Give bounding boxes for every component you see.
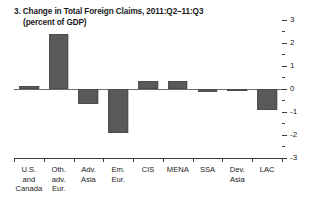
bar-slot: [252, 20, 282, 158]
x-axis-label-oth-adv-eur: Oth. adv. Eur.: [44, 165, 74, 194]
tick-mark-icon: [282, 100, 285, 101]
bar-slot: [44, 20, 74, 158]
bar-cis[interactable]: [138, 81, 158, 89]
x-axis-ticks: [14, 159, 282, 163]
bar-lac[interactable]: [257, 89, 277, 110]
tick-mark-icon: [282, 43, 287, 44]
x-axis-label-mena: MENA: [163, 165, 193, 175]
y-tick-label: -3: [290, 154, 297, 162]
tick-mark-icon: [282, 31, 285, 32]
x-axis-label-em-eur: Em. Eur.: [103, 165, 133, 184]
y-tick-label: 3: [290, 16, 294, 24]
bar-slot: [193, 20, 223, 158]
tick-mark-icon: [282, 77, 285, 78]
y-tick-label: -2: [290, 131, 297, 139]
x-axis-label-cis: CIS: [133, 165, 163, 175]
tick-mark-icon: [282, 66, 287, 67]
tick-mark-icon: [282, 20, 287, 21]
bar-slot: [163, 20, 193, 158]
x-tick-mark-icon: [252, 159, 253, 162]
plot-area: [14, 20, 282, 158]
bar-adv-asia[interactable]: [79, 89, 99, 104]
y-tick-label: 0: [290, 85, 294, 93]
x-tick-mark-icon: [103, 159, 104, 162]
y-tick-label: 1: [290, 62, 294, 70]
x-axis-label-u-s-and-canada: U.S. and Canada: [14, 165, 44, 194]
x-tick-mark-icon: [193, 159, 194, 162]
tick-mark-icon: [282, 112, 287, 113]
tick-mark-icon: [282, 123, 285, 124]
x-tick-mark-icon: [163, 159, 164, 162]
tick-mark-icon: [282, 146, 285, 147]
x-tick-mark-icon: [74, 159, 75, 162]
x-tick-mark-icon: [14, 159, 15, 162]
x-tick-mark-icon: [222, 159, 223, 162]
x-axis-label-adv-asia: Adv. Asia: [74, 165, 104, 184]
bar-slot: [14, 20, 44, 158]
bar-mena[interactable]: [168, 81, 188, 89]
bar-series: [14, 20, 282, 158]
x-axis-label-lac: LAC: [252, 165, 282, 175]
bar-em-eur[interactable]: [108, 89, 128, 133]
x-axis-label-ssa: SSA: [193, 165, 223, 175]
bar-u-s-and-canada[interactable]: [19, 86, 39, 89]
tick-mark-icon: [282, 135, 287, 136]
x-tick-mark-icon: [44, 159, 45, 162]
tick-mark-icon: [282, 54, 285, 55]
bar-slot: [103, 20, 133, 158]
x-tick-mark-icon: [133, 159, 134, 162]
bar-slot: [222, 20, 252, 158]
tick-mark-icon: [282, 89, 287, 90]
bar-ssa[interactable]: [198, 89, 218, 92]
x-axis-label-dev-asia: Dev. Asia: [222, 165, 252, 184]
y-tick-label: 2: [290, 39, 294, 47]
page-title: 3. Change in Total Foreign Claims, 2011:…: [14, 6, 264, 17]
x-tick-mark-icon: [282, 159, 283, 162]
y-tick-label: -1: [290, 108, 297, 116]
x-axis-category-labels: U.S. and CanadaOth. adv. Eur.Adv. AsiaEm…: [14, 165, 282, 194]
chart-figure: 3. Change in Total Foreign Claims, 2011:…: [0, 0, 315, 207]
bar-oth-adv-eur[interactable]: [49, 34, 69, 89]
bar-dev-asia[interactable]: [228, 89, 248, 91]
y-axis: 3210-1-2-3: [282, 20, 315, 158]
bar-slot: [74, 20, 104, 158]
bar-slot: [133, 20, 163, 158]
